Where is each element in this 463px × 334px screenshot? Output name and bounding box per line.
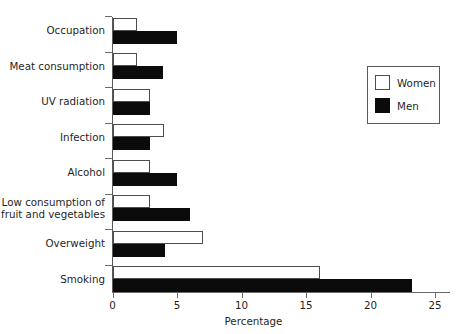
bar-women-5 — [113, 195, 150, 208]
x-axis-tick-label-10: 10 — [235, 299, 248, 311]
bar-women-3 — [113, 124, 165, 137]
category-label-5: Low consumption of fruit and vegetables — [1, 196, 105, 221]
x-axis-tick-label-5: 5 — [174, 299, 181, 311]
bar-women-7 — [113, 266, 321, 279]
bar-men-6 — [113, 244, 166, 257]
legend-item-men: Men — [375, 98, 419, 113]
bar-men-5 — [113, 208, 190, 221]
bar-women-6 — [113, 231, 203, 244]
bar-chart: OccupationMeat consumptionUV radiationIn… — [0, 0, 463, 334]
y-axis-tick — [105, 52, 112, 53]
x-axis-title-text: Percentage — [225, 315, 283, 327]
bar-men-1 — [113, 66, 163, 79]
x-axis-tick — [435, 292, 436, 298]
x-axis-tick — [113, 292, 114, 298]
legend-swatch-men-icon — [375, 98, 390, 113]
bar-men-4 — [113, 173, 178, 186]
legend-label-women: Women — [397, 77, 436, 89]
y-axis-tick — [105, 16, 112, 17]
x-axis-tick-label-25: 25 — [428, 299, 441, 311]
category-label-0: Occupation — [46, 24, 105, 37]
category-label-6: Overweight — [46, 237, 105, 250]
bar-women-4 — [113, 160, 150, 173]
y-axis-tick — [105, 87, 112, 88]
x-axis-tick — [371, 292, 372, 298]
legend: Women Men — [367, 66, 440, 124]
category-label-1: Meat consumption — [9, 60, 105, 73]
x-axis-title: Percentage — [0, 315, 463, 327]
bar-women-0 — [113, 18, 138, 31]
bar-men-3 — [113, 137, 150, 150]
category-label-4: Alcohol — [67, 166, 105, 179]
x-axis-tick — [306, 292, 307, 298]
x-axis-tick-label-15: 15 — [299, 299, 312, 311]
y-axis-tick — [105, 229, 112, 230]
category-label-2: UV radiation — [41, 95, 105, 108]
legend-swatch-women-icon — [375, 75, 390, 90]
bar-women-1 — [113, 53, 138, 66]
x-axis-tick — [177, 292, 178, 298]
bar-women-2 — [113, 89, 150, 102]
bar-men-0 — [113, 31, 178, 44]
y-axis-tick — [105, 194, 112, 195]
category-label-3: Infection — [60, 131, 105, 144]
bar-men-2 — [113, 102, 150, 115]
category-label-7: Smoking — [60, 273, 105, 286]
y-axis-tick — [105, 158, 112, 159]
legend-label-men: Men — [397, 100, 419, 112]
y-axis-tick — [105, 265, 112, 266]
bar-men-7 — [113, 279, 412, 292]
x-axis-line — [112, 292, 450, 293]
x-axis-tick-label-0: 0 — [109, 299, 116, 311]
legend-item-women: Women — [375, 75, 436, 90]
x-axis-tick-label-20: 20 — [364, 299, 377, 311]
x-axis-tick — [242, 292, 243, 298]
y-axis-tick — [105, 123, 112, 124]
